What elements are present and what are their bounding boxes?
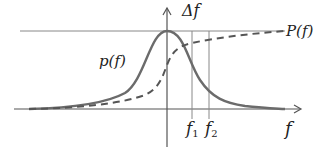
f2-label: f2 <box>205 120 218 139</box>
f1-label: f1 <box>186 120 199 139</box>
diagram-canvas <box>0 0 327 154</box>
cumulative-curve-P <box>29 31 285 109</box>
x-axis-label: f <box>285 120 292 138</box>
cumulative-label: P(f) <box>286 24 313 39</box>
delta-f-label: Δf <box>182 3 199 19</box>
f2-label-sub: 2 <box>211 128 217 139</box>
diagram: Δf P(f) p(f) f1 f2 f <box>0 0 327 154</box>
density-label: p(f) <box>99 54 126 69</box>
f1-label-sub: 1 <box>192 128 198 139</box>
density-curve-p <box>29 31 285 109</box>
